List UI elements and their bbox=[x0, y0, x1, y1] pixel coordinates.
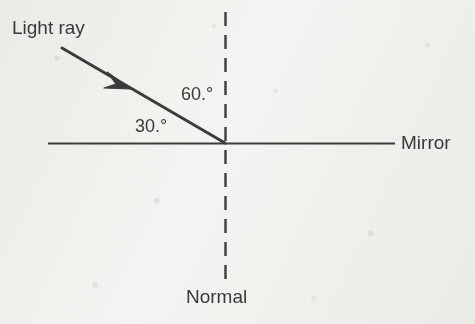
physics-diagram-figure: Light ray 60.° 30.° Mirror Normal bbox=[0, 0, 475, 324]
mirror-label: Mirror bbox=[401, 133, 451, 152]
angle-from-mirror-label: 30.° bbox=[135, 117, 167, 135]
angle-of-incidence-label: 60.° bbox=[181, 85, 213, 103]
light-ray-label: Light ray bbox=[12, 18, 85, 37]
normal-label: Normal bbox=[186, 287, 247, 306]
reflection-diagram-canvas bbox=[0, 0, 475, 324]
